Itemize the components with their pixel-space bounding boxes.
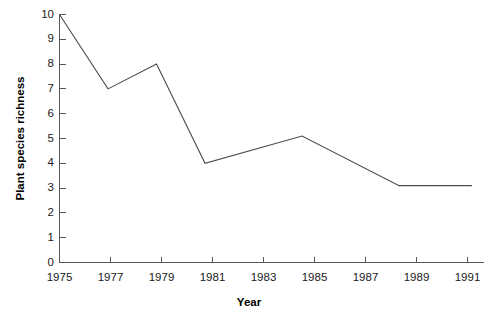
y-tick-label: 10 [41,8,54,20]
y-tick-label: 8 [48,57,54,69]
x-tick-label: 1979 [149,271,175,283]
y-tick-label: 4 [48,156,55,168]
y-tick-label: 6 [48,107,54,119]
x-tick-label: 1983 [251,271,277,283]
y-axis-title: Plant species richness [14,76,26,200]
y-tick-label: 7 [48,82,54,94]
y-axis-tick-labels: 0 1 2 3 4 5 6 7 8 9 10 [41,8,54,268]
y-tick-label: 2 [48,206,54,218]
y-tick-label: 3 [48,181,54,193]
line-chart: 0 1 2 3 4 5 6 7 8 9 10 1975 1977 [0,0,488,318]
x-tick-label: 1987 [353,271,379,283]
x-axis-tick-labels: 1975 1977 1979 1981 1983 1985 1987 1989 … [47,271,481,283]
chart-page: 0 1 2 3 4 5 6 7 8 9 10 1975 1977 [0,0,488,318]
x-tick-label: 1981 [200,271,226,283]
cut-off-caption-artifact: . . . . . . . .. .. ... .. .. [186,306,486,313]
y-tick-label: 1 [48,231,54,243]
data-series-line [60,15,472,186]
x-tick-label: 1989 [404,271,430,283]
x-tick-label: 1991 [455,271,481,283]
x-axis-ticks [60,257,468,263]
x-tick-label: 1985 [302,271,328,283]
y-tick-label: 5 [48,132,54,144]
y-tick-label: 0 [48,256,54,268]
y-axis-ticks [60,15,66,263]
x-tick-label: 1975 [47,271,73,283]
y-tick-label: 9 [48,32,54,44]
x-tick-label: 1977 [98,271,124,283]
